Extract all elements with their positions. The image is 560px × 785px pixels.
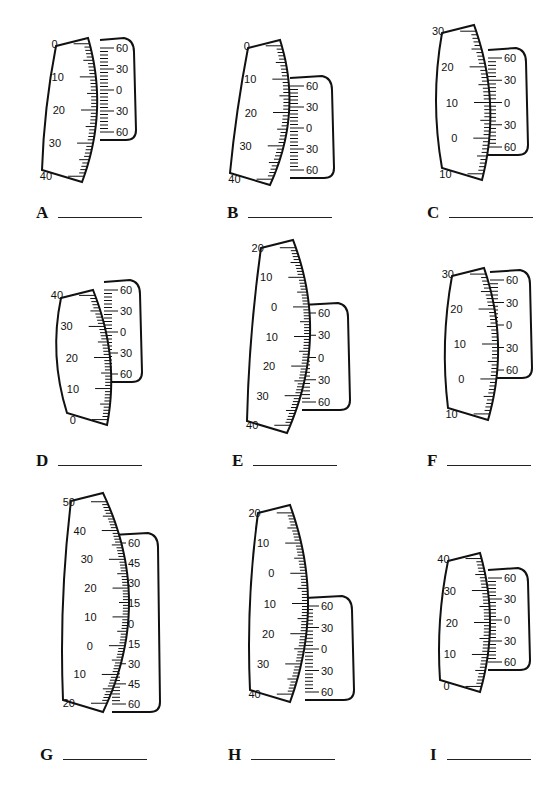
vernier-label: 0 — [318, 352, 324, 364]
vernier-label: 60 — [306, 80, 318, 92]
vernier-diagram-c: 603003060302010010 — [432, 25, 528, 180]
main-scale-label: 40 — [246, 419, 258, 431]
vernier-label: 45 — [128, 678, 140, 690]
main-scale-label: 20 — [252, 242, 264, 254]
main-scale-label: 20 — [263, 360, 275, 372]
vernier-label: 60 — [120, 368, 132, 380]
vernier-label: 0 — [504, 97, 510, 109]
vernier-diagram-d: 603003060403020100 — [51, 280, 142, 426]
vernier-diagram-f: 603003060302010010 — [442, 268, 532, 420]
answer-blank[interactable] — [449, 217, 533, 218]
main-scale-label: 40 — [74, 525, 86, 537]
vernier-scale: 603003060 — [100, 38, 136, 140]
main-scale-label: 30 — [444, 585, 456, 597]
answer-blank[interactable] — [251, 759, 335, 760]
answer-row-e: E — [232, 452, 337, 469]
main-scale-label: 40 — [51, 289, 63, 301]
main-scale-label: 30 — [60, 320, 72, 332]
vernier-scale: 603003060 — [305, 596, 354, 700]
main-scale: 2010010203040 — [249, 505, 308, 702]
main-scale: 403020100 — [51, 289, 111, 425]
vernier-label: 0 — [321, 643, 327, 655]
vernier-label: 60 — [321, 600, 333, 612]
vernier-label: 30 — [120, 305, 132, 317]
vernier-label: 30 — [306, 143, 318, 155]
answer-row-g: G — [40, 746, 147, 763]
main-scale-label: 10 — [67, 383, 79, 395]
vernier-label: 60 — [116, 126, 128, 138]
main-scale-label: 40 — [228, 173, 240, 185]
vernier-label: 30 — [318, 374, 330, 386]
main-scale-label: 10 — [244, 73, 256, 85]
vernier-label: 15 — [128, 638, 140, 650]
vernier-label: 60 — [506, 274, 518, 286]
main-scale-label: 50 — [63, 496, 75, 508]
main-scale-label: 0 — [271, 301, 277, 313]
answer-blank[interactable] — [253, 465, 337, 466]
answer-blank[interactable] — [63, 759, 147, 760]
item-letter: G — [40, 746, 53, 763]
main-scale: 010203040 — [228, 40, 289, 185]
main-scale-label: 0 — [451, 132, 457, 144]
item-letter: D — [36, 452, 48, 469]
answer-row-i: I — [430, 746, 531, 763]
main-scale-label: 10 — [264, 598, 276, 610]
main-scale-label: 10 — [260, 271, 272, 283]
vernier-label: 30 — [128, 577, 140, 589]
main-scale-label: 20 — [441, 61, 453, 73]
vernier-label: 30 — [321, 665, 333, 677]
answer-row-c: C — [427, 204, 533, 221]
item-letter: B — [227, 204, 238, 221]
answer-blank[interactable] — [447, 759, 531, 760]
main-scale-label: 10 — [52, 71, 64, 83]
vernier-label: 30 — [504, 74, 516, 86]
main-scale-label: 20 — [450, 303, 462, 315]
item-letter: I — [430, 746, 437, 763]
main-scale-label: 30 — [81, 553, 93, 565]
vernier-label: 30 — [321, 622, 333, 634]
answer-blank[interactable] — [248, 217, 332, 218]
vernier-label: 60 — [321, 686, 333, 698]
main-scale-label: 30 — [442, 268, 454, 280]
answer-blank[interactable] — [58, 465, 142, 466]
answer-blank[interactable] — [447, 465, 531, 466]
main-scale-label: 30 — [432, 25, 444, 37]
vernier-scale: 603003060 — [290, 76, 334, 178]
main-scale: 302010010 — [432, 25, 490, 180]
main-scale-label: 20 — [245, 107, 257, 119]
vernier-label: 60 — [504, 141, 516, 153]
main-scale-label: 0 — [70, 414, 76, 426]
item-letter: H — [228, 746, 241, 763]
vernier-diagram-i: 603003060403020100 — [437, 553, 530, 693]
vernier-diagram-b: 603003060010203040 — [228, 40, 334, 185]
item-letter: E — [232, 452, 243, 469]
vernier-label: 30 — [116, 63, 128, 75]
vernier-diagram-e: 6030030602010010203040 — [246, 240, 350, 433]
main-scale-label: 10 — [446, 97, 458, 109]
vernier-label: 45 — [128, 557, 140, 569]
answer-row-a: A — [36, 204, 142, 221]
answer-row-h: H — [228, 746, 335, 763]
main-scale-label: 0 — [443, 680, 449, 692]
main-scale-label: 40 — [249, 688, 261, 700]
answer-blank[interactable] — [58, 217, 142, 218]
main-scale: 302010010 — [442, 268, 498, 420]
main-scale-label: 0 — [51, 38, 57, 50]
vernier-scale: 603003060 — [488, 48, 528, 155]
vernier-label: 30 — [318, 329, 330, 341]
main-scale-label: 10 — [257, 537, 269, 549]
answer-row-f: F — [427, 452, 531, 469]
main-scale-label: 10 — [84, 611, 96, 623]
main-scale-label: 10 — [74, 668, 86, 680]
vernier-diagram-g: 60453015015304560504030201001020 — [62, 493, 160, 712]
vernier-label: 60 — [504, 656, 516, 668]
item-letter: C — [427, 204, 439, 221]
vernier-label: 60 — [506, 364, 518, 376]
main-scale-label: 20 — [66, 352, 78, 364]
main-scale-label: 0 — [244, 40, 250, 52]
vernier-label: 30 — [306, 101, 318, 113]
vernier-label: 60 — [120, 284, 132, 296]
vernier-label: 30 — [504, 593, 516, 605]
vernier-label: 60 — [128, 537, 140, 549]
main-scale-label: 30 — [257, 658, 269, 670]
